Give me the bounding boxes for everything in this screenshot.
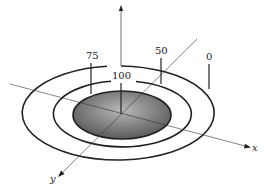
- vertical-axis-arrow-icon: [119, 5, 123, 11]
- diagram-canvas: 75 50 0 100 x y: [0, 0, 264, 186]
- label-75: 75: [86, 50, 99, 61]
- contour-100-region: [73, 91, 171, 139]
- label-0: 0: [206, 51, 212, 62]
- x-axis-label: x: [252, 142, 258, 153]
- contour-diagram: 75 50 0 100 x y: [0, 0, 264, 186]
- label-100: 100: [112, 70, 131, 81]
- y-axis-label: y: [49, 173, 56, 184]
- label-50: 50: [155, 45, 168, 56]
- x-axis-arrow-icon: [244, 144, 251, 149]
